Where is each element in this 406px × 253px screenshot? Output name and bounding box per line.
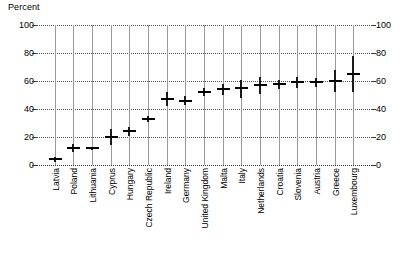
estimate-marker (254, 84, 267, 86)
y-tick-label-right-60: 60 (376, 77, 406, 86)
gridline-x-0 (55, 25, 56, 165)
estimate-marker (273, 83, 286, 85)
y-tick-label-left-80: 80 (4, 49, 34, 58)
gridline-x-13 (297, 25, 298, 165)
gridline-x-12 (279, 25, 280, 165)
y-tick-label-right-80: 80 (376, 49, 406, 58)
estimate-marker (179, 100, 192, 102)
plot-area (36, 25, 372, 165)
category-label-austria: Austria (313, 168, 322, 194)
estimate-marker (347, 73, 360, 75)
y-tick-label-right-40: 40 (376, 105, 406, 114)
y-tick-mark-right-60 (372, 81, 376, 82)
category-label-ireland: Ireland (164, 168, 173, 194)
category-label-united-kingdom: United Kingdom (201, 168, 210, 228)
category-label-italy: Italy (238, 168, 247, 184)
estimate-marker (105, 136, 118, 138)
estimate-marker (67, 147, 80, 149)
estimate-marker (161, 98, 174, 100)
y-tick-label-right-20: 20 (376, 133, 406, 142)
category-label-layer: LatviaPolandLithuaniaCyprusHungaryCzech … (36, 166, 372, 252)
y-tick-label-left-60: 60 (4, 77, 34, 86)
category-label-lithuania: Lithuania (89, 168, 98, 203)
category-label-greece: Greece (332, 168, 341, 196)
category-label-czech-republic: Czech Republic (145, 168, 154, 228)
y-tick-label-left-100: 100 (4, 21, 34, 30)
y-tick-label-left-40: 40 (4, 105, 34, 114)
estimate-marker (86, 147, 99, 149)
estimate-marker (329, 80, 342, 82)
estimate-marker (291, 81, 304, 83)
gridline-x-16 (353, 25, 354, 165)
gridline-x-9 (223, 25, 224, 165)
y-tick-mark-right-40 (372, 109, 376, 110)
estimate-marker (217, 88, 230, 90)
axis-unit-title: Percent (8, 2, 40, 13)
estimate-marker (198, 91, 211, 93)
gridline-x-5 (148, 25, 149, 165)
estimate-marker (123, 130, 136, 132)
y-tick-label-right-0: 0 (376, 161, 406, 170)
gridline-x-4 (129, 25, 130, 165)
category-label-cyprus: Cyprus (108, 168, 117, 195)
gridline-x-2 (92, 25, 93, 165)
category-label-slovenia: Slovenia (294, 168, 303, 201)
estimate-marker (235, 87, 248, 89)
y-tick-label-right-100: 100 (376, 21, 406, 30)
category-label-luxembourg: Luxembourg (350, 168, 359, 215)
gridline-x-7 (185, 25, 186, 165)
y-tick-label-left-0: 0 (4, 161, 34, 170)
category-label-malta: Malta (220, 168, 229, 189)
gridline-x-14 (316, 25, 317, 165)
category-label-germany: Germany (182, 168, 191, 203)
category-label-croatia: Croatia (276, 168, 285, 195)
estimate-marker (49, 158, 62, 160)
category-label-poland: Poland (70, 168, 79, 194)
percent-scatter-chart: Percent 002020404060608080100100 LatviaP… (0, 0, 406, 253)
y-tick-label-left-20: 20 (4, 133, 34, 142)
y-tick-mark-right-80 (372, 53, 376, 54)
y-tick-mark-right-20 (372, 137, 376, 138)
category-label-hungary: Hungary (126, 168, 135, 200)
gridline-x-11 (260, 25, 261, 165)
estimate-marker (310, 81, 323, 83)
category-label-netherlands: Netherlands (257, 168, 266, 214)
gridline-x-15 (335, 25, 336, 165)
estimate-marker (142, 118, 155, 120)
y-tick-mark-right-100 (372, 25, 376, 26)
category-label-latvia: Latvia (52, 168, 61, 191)
y-tick-mark-right-0 (372, 165, 376, 166)
